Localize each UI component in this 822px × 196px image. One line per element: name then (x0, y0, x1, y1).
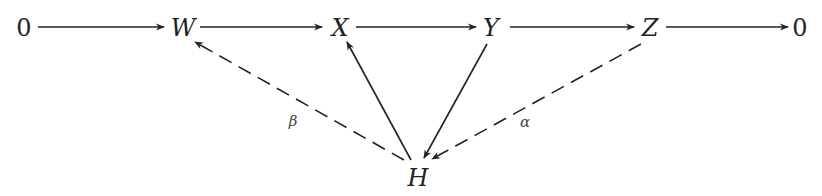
node-zero-left: 0 (16, 16, 31, 40)
node-X: X (331, 16, 348, 40)
exact-sequence-diagram: 0 W X Y Z 0 H β α (0, 0, 822, 196)
node-W: W (171, 16, 196, 40)
node-zero-right: 0 (792, 16, 807, 40)
dashed-arrow-Z-to-H-alpha (432, 44, 641, 159)
dashed-arrow-H-to-W-beta (195, 42, 404, 160)
arrow-H-to-X (347, 42, 411, 160)
node-H: H (408, 166, 429, 190)
edge-label-beta: β (289, 114, 298, 129)
edge-label-alpha: α (520, 115, 530, 130)
node-Y: Y (483, 16, 499, 40)
arrow-Y-to-H (424, 44, 487, 158)
node-Z: Z (642, 16, 659, 40)
